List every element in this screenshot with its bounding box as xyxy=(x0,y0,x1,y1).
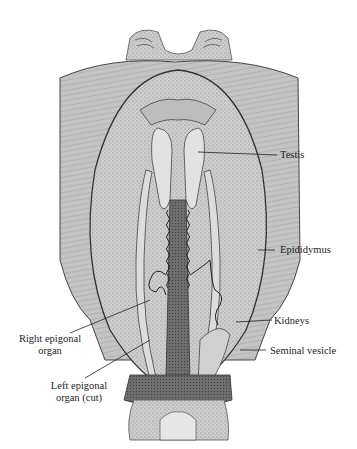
kidneys xyxy=(166,200,190,380)
label-left-epigonal-line2: organ (cut) xyxy=(46,392,112,404)
label-left-epigonal-organ: Left epigonal organ (cut) xyxy=(46,380,112,404)
label-testis: Testis xyxy=(280,149,304,161)
label-epididymus: Epididymus xyxy=(280,244,331,256)
head-region xyxy=(126,30,232,60)
pelvic-region xyxy=(124,375,232,440)
label-right-epigonal-line2: organ xyxy=(16,345,84,357)
label-right-epigonal-organ: Right epigonal organ xyxy=(16,333,84,357)
label-kidneys: Kidneys xyxy=(274,315,309,327)
label-seminal-vesicle: Seminal vesicle xyxy=(270,345,336,357)
label-right-epigonal-line1: Right epigonal xyxy=(16,333,84,345)
label-left-epigonal-line1: Left epigonal xyxy=(46,380,112,392)
